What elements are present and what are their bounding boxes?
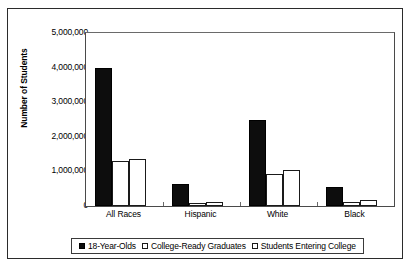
- legend-swatch-icon: [79, 243, 85, 249]
- y-axis-tick-label: 3,000,000: [26, 96, 88, 106]
- y-axis-tick-label: 4,000,000: [26, 62, 88, 72]
- bar: [189, 203, 206, 206]
- bar: [360, 200, 377, 206]
- y-axis-tick-label: 0: [26, 200, 88, 210]
- legend-label: Students Entering College: [261, 241, 356, 251]
- y-axis-tick-label: 5,000,000: [26, 27, 88, 37]
- bar: [172, 184, 189, 206]
- bar-group: [240, 33, 317, 206]
- bar: [266, 174, 283, 206]
- x-axis-tick-label: Black: [344, 209, 364, 219]
- bar-group: [317, 33, 394, 206]
- bar: [129, 159, 146, 206]
- legend-swatch-icon: [252, 243, 258, 249]
- bar: [249, 120, 266, 207]
- bar-group: [86, 33, 163, 206]
- bar-group: [163, 33, 240, 206]
- bar: [283, 170, 300, 206]
- bar: [326, 187, 343, 206]
- category-separator: [163, 202, 164, 206]
- chart-figure: Number of Students 01,000,0002,000,0003,…: [7, 8, 403, 259]
- legend-label: 18-Year-Olds: [88, 241, 136, 251]
- bar: [206, 202, 223, 206]
- category-separator: [317, 202, 318, 206]
- chart-legend: 18-Year-OldsCollege-Ready GraduatesStude…: [71, 238, 364, 254]
- legend-label: College-Ready Graduates: [151, 241, 246, 251]
- bar: [343, 202, 360, 206]
- plot-area: [85, 32, 395, 207]
- y-axis-tick-label: 2,000,000: [26, 131, 88, 141]
- legend-entry: Students Entering College: [252, 241, 356, 251]
- plot-inner: [86, 33, 394, 206]
- y-axis-tick-label: 1,000,000: [26, 165, 88, 175]
- legend-swatch-icon: [142, 243, 148, 249]
- legend-entry: 18-Year-Olds: [79, 241, 136, 251]
- x-axis-tick-labels: All RacesHispanicWhiteBlack: [85, 209, 395, 223]
- bar: [112, 161, 129, 206]
- x-axis-tick-label: White: [267, 209, 288, 219]
- x-axis-tick-label: Hispanic: [185, 209, 217, 219]
- category-separator: [240, 202, 241, 206]
- x-axis-tick-label: All Races: [106, 209, 141, 219]
- legend-entry: College-Ready Graduates: [142, 241, 246, 251]
- bar: [95, 68, 112, 206]
- y-axis-tick-labels: 01,000,0002,000,0003,000,0004,000,0005,0…: [26, 9, 88, 260]
